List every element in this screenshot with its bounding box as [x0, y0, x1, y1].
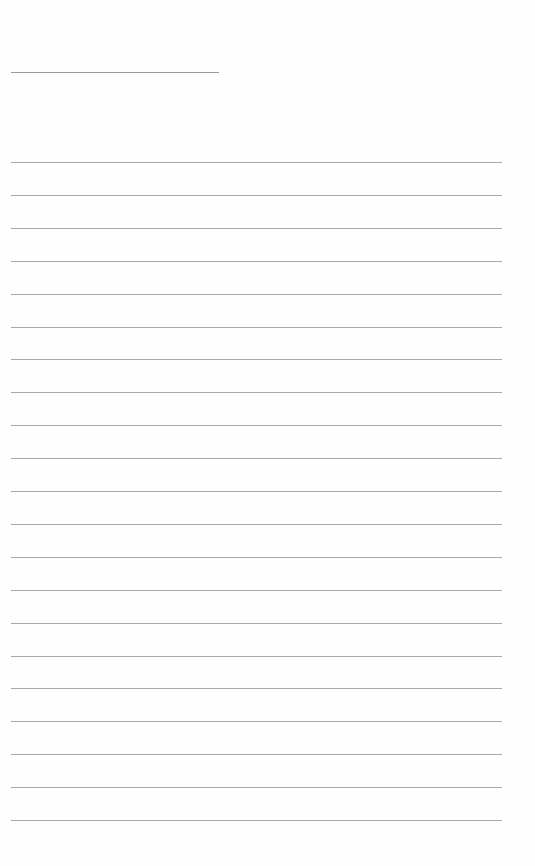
ruled-line	[11, 228, 502, 229]
ruled-line	[11, 261, 502, 262]
lined-paper-page	[0, 0, 535, 866]
ruled-line	[11, 359, 502, 360]
ruled-line	[11, 721, 502, 722]
ruled-line	[11, 491, 502, 492]
ruled-line	[11, 820, 502, 821]
ruled-line	[11, 392, 502, 393]
ruled-line	[11, 162, 502, 163]
title-line	[11, 72, 219, 73]
ruled-line	[11, 623, 502, 624]
ruled-line	[11, 656, 502, 657]
ruled-line	[11, 425, 502, 426]
ruled-line	[11, 557, 502, 558]
ruled-line	[11, 754, 502, 755]
ruled-line	[11, 787, 502, 788]
ruled-line	[11, 195, 502, 196]
ruled-line	[11, 327, 502, 328]
ruled-line	[11, 458, 502, 459]
ruled-line	[11, 590, 502, 591]
ruled-line	[11, 524, 502, 525]
ruled-line	[11, 688, 502, 689]
ruled-line	[11, 294, 502, 295]
